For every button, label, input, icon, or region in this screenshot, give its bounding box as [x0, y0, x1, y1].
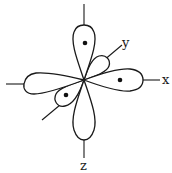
- y-axis-lower: [42, 105, 60, 120]
- dot-lower-left: [64, 93, 69, 98]
- x-axis-label: x: [162, 72, 170, 87]
- dot-up: [83, 41, 88, 46]
- z-axis-label: z: [80, 158, 87, 173]
- y-axis-label: y: [121, 35, 130, 50]
- orbital-diagram: y x z: [0, 0, 172, 173]
- dot-right: [118, 78, 123, 83]
- orbital-svg: y x z: [0, 0, 172, 173]
